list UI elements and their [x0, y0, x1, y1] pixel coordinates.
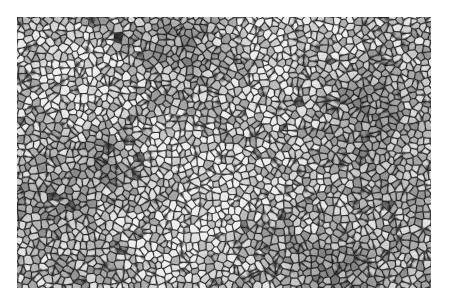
granular-texture-image: Grayscale micrograph-like texture of den… [17, 17, 431, 288]
texture-canvas [17, 17, 431, 288]
